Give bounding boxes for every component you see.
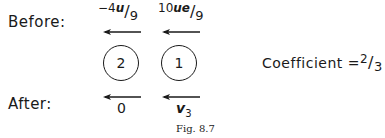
after-label: After: xyxy=(8,95,52,113)
figure-caption: Fig. 8.7 xyxy=(176,123,215,134)
after-velocity-ball-2: 0 xyxy=(117,100,126,116)
before-velocity-ball-2: −4u/9 xyxy=(98,2,138,21)
ball-2: 2 xyxy=(103,45,139,81)
after-velocity-ball-1: v3 xyxy=(176,100,192,119)
arrow-left-icon xyxy=(162,28,200,36)
before-label: Before: xyxy=(8,13,66,31)
coefficient-label: Coefficient =2/3 xyxy=(262,53,383,72)
arrow-left-icon xyxy=(103,28,141,36)
before-velocity-ball-1: 10ue/9 xyxy=(158,2,204,21)
ball-1: 1 xyxy=(161,45,197,81)
